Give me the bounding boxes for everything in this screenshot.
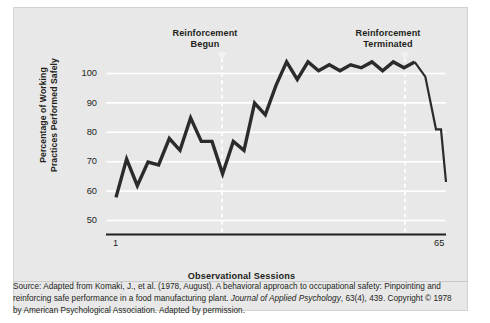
annotation-terminated-line2: Terminated — [328, 39, 448, 50]
figure-container: 100 90 80 70 60 50 Percentage of Working… — [0, 0, 490, 323]
phase-change-lines — [222, 58, 405, 234]
y-axis-label-line2: Practices Performed Safely — [49, 45, 60, 185]
x-tick-label-first: 1 — [113, 238, 118, 248]
annotation-begun-line1: Reinforcement — [145, 28, 265, 39]
figure-frame: 100 90 80 70 60 50 Percentage of Working… — [13, 7, 468, 311]
y-tick-label-90: 90 — [71, 98, 97, 108]
data-line — [116, 62, 415, 198]
source-journal-title: Journal of Applied Psychology — [231, 294, 341, 303]
y-tick-label-80: 80 — [71, 127, 97, 137]
y-axis-label: Percentage of Working Practices Performe… — [38, 45, 60, 185]
data-line-terminal-decline — [415, 62, 446, 182]
y-axis-label-line1: Percentage of Working — [38, 45, 49, 185]
annotation-reinforcement-terminated: Reinforcement Terminated — [328, 28, 448, 51]
y-tick-label-100: 100 — [71, 68, 97, 78]
annotation-terminated-line1: Reinforcement — [328, 28, 448, 39]
phase-arrow-markers — [218, 52, 410, 60]
x-axis-label: Observational Sessions — [14, 271, 469, 281]
source-note: Source: Adapted from Komaki, J., et al. … — [13, 281, 461, 316]
gridlines — [106, 74, 446, 221]
y-tick-label-60: 60 — [71, 186, 97, 196]
annotation-reinforcement-begun: Reinforcement Begun — [145, 28, 265, 51]
x-tick-label-last: 65 — [434, 238, 444, 248]
plot-region: 100 90 80 70 60 50 Percentage of Working… — [14, 8, 469, 256]
source-divider — [13, 281, 468, 282]
annotation-begun-line2: Begun — [145, 39, 265, 50]
y-tick-label-70: 70 — [71, 156, 97, 166]
y-tick-label-50: 50 — [71, 215, 97, 225]
